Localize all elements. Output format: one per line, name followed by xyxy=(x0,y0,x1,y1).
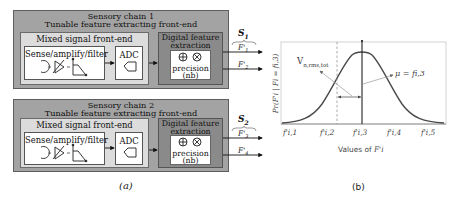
plot-frame xyxy=(281,42,446,124)
figure-b-plot xyxy=(0,0,458,203)
xtick-3: f'i,3 xyxy=(353,128,367,137)
xtick-2: f'i,2 xyxy=(320,128,334,137)
noise-annotation: Vn,rms,tot xyxy=(297,56,329,68)
y-axis-label: Pr(F'i | Fi = fi,3) xyxy=(271,34,280,134)
noise-annotation-sub: n,rms,tot xyxy=(303,62,328,68)
xtick-4: f'i,4 xyxy=(387,128,401,137)
x-axis-label-var: F'i xyxy=(374,145,384,154)
caption-b: (b) xyxy=(352,182,365,192)
x-axis-label-prefix: Values of xyxy=(338,145,374,154)
noise-leader-line xyxy=(320,71,352,96)
xtick-5: f'i,5 xyxy=(421,128,435,137)
x-axis-label: Values of F'i xyxy=(338,145,384,154)
xtick-1: f'i,1 xyxy=(283,128,297,137)
mean-annotation: μ = fi,3 xyxy=(395,69,425,78)
